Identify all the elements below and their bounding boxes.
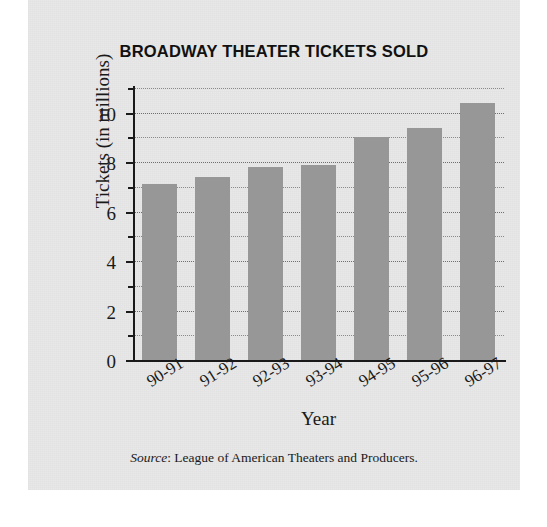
y-tick-minor [128, 137, 133, 139]
gridline [133, 88, 504, 89]
source-text: : League of American Theaters and Produc… [167, 450, 418, 465]
y-tick-minor [128, 88, 133, 90]
gridline [133, 137, 504, 138]
bar [354, 137, 389, 360]
x-axis-title: Year [133, 408, 504, 430]
bar [460, 103, 495, 360]
plot-inner [133, 88, 504, 360]
bar [248, 167, 283, 360]
figure-page: BROADWAY THEATER TICKETS SOLD 0246810 Ti… [0, 0, 547, 527]
bar [407, 128, 442, 360]
source-label: Source [130, 450, 167, 465]
y-tick-major: 6 [126, 212, 133, 214]
y-tick-label: 4 [107, 252, 117, 274]
y-tick-major: 2 [126, 311, 133, 313]
y-axis-title: Tickets (in millions) [92, 16, 114, 246]
gridline [133, 162, 504, 163]
source-note: Source: League of American Theaters and … [28, 450, 520, 466]
y-tick-major: 8 [126, 162, 133, 164]
bar [195, 177, 230, 360]
y-tick-minor [128, 286, 133, 288]
bar [301, 165, 336, 360]
gridline [133, 113, 504, 114]
y-tick-minor [128, 187, 133, 189]
y-tick-major: 10 [126, 113, 133, 115]
x-tick-layer: 90-9191-9292-9393-9494-9595-9696-97 [133, 362, 504, 408]
plot-area [133, 88, 504, 360]
y-tick-label: 0 [107, 351, 117, 373]
bar [142, 184, 177, 360]
y-tick-label: 2 [107, 302, 117, 324]
y-axis-spine [133, 86, 135, 362]
y-tick-major: 4 [126, 261, 133, 263]
y-tick-minor [128, 335, 133, 337]
y-tick-minor [128, 236, 133, 238]
